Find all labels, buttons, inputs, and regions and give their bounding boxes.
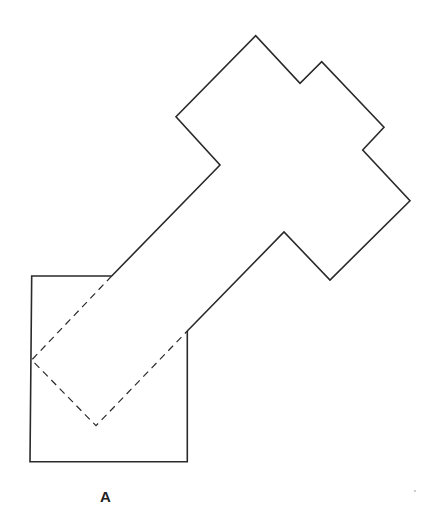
diagram-canvas: A [0,0,436,529]
rotated-figure-outline [112,36,410,331]
square-outline [30,276,187,462]
scan-speck [414,490,416,492]
diagram-figure [0,0,436,529]
rotated-figure-hidden-edges [32,276,188,426]
figure-label: A [100,488,111,505]
